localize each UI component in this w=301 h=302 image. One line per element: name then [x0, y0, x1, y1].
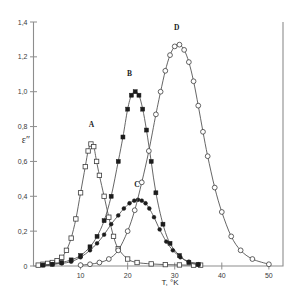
marker-A [69, 236, 73, 240]
marker-B [144, 128, 148, 132]
marker-C [41, 263, 45, 267]
marker-D [266, 262, 271, 267]
marker-C [158, 228, 162, 232]
marker-A [97, 173, 101, 177]
marker-C [178, 255, 182, 259]
marker-C [132, 199, 136, 203]
marker-C [164, 240, 168, 244]
series-line-B [43, 92, 198, 265]
chart-canvas: 00,20,40,60,81,01,21,41020304050 ABCD T,… [0, 0, 301, 302]
curves [36, 42, 271, 267]
marker-C [187, 260, 191, 264]
y-tick-label: 1,0 [18, 88, 28, 95]
marker-D [196, 103, 201, 108]
x-axis-title: T, °K [162, 278, 180, 287]
marker-D [177, 42, 182, 47]
x-tick-label: 10 [77, 272, 85, 279]
marker-C [79, 255, 83, 259]
marker-B [161, 222, 165, 226]
marker-A [55, 259, 59, 263]
marker-D [205, 154, 210, 159]
marker-B [133, 90, 137, 94]
marker-A [102, 194, 106, 198]
marker-A [83, 164, 87, 168]
marker-D [158, 89, 163, 94]
marker-C [60, 261, 64, 265]
marker-A [149, 262, 153, 266]
marker-A [135, 260, 139, 264]
marker-A [125, 257, 129, 261]
marker-C [88, 248, 92, 252]
marker-C [109, 222, 113, 226]
marker-B [126, 107, 130, 111]
marker-D [172, 44, 177, 49]
curve-labels: ABCD [89, 23, 180, 189]
marker-C [116, 214, 120, 218]
y-tick-label: 0,8 [18, 123, 28, 130]
marker-D [139, 180, 144, 185]
marker-D [116, 248, 121, 253]
y-tick-label: 1,2 [18, 53, 28, 60]
marker-A [107, 215, 111, 219]
marker-D [191, 79, 196, 84]
marker-B [116, 159, 120, 163]
marker-C [152, 215, 156, 219]
series-D [78, 42, 271, 267]
y-tick-label: 0,4 [18, 193, 28, 200]
marker-B [95, 234, 99, 238]
marker-A [64, 248, 68, 252]
marker-A [92, 144, 96, 148]
curve-label-C: C [134, 180, 139, 189]
marker-B [121, 135, 125, 139]
marker-A [60, 255, 64, 259]
marker-D [163, 68, 168, 73]
x-tick-label: 20 [124, 272, 132, 279]
x-tick-label: 50 [265, 272, 273, 279]
marker-C [147, 207, 151, 211]
marker-A [94, 159, 98, 163]
marker-B [129, 93, 133, 97]
curve-label-D: D [174, 23, 180, 32]
curve-label-B: B [127, 69, 132, 78]
marker-B [137, 93, 141, 97]
marker-C [196, 262, 200, 266]
y-tick-label: 0,6 [18, 158, 28, 165]
marker-C [69, 260, 73, 264]
marker-B [109, 194, 113, 198]
marker-A [36, 263, 40, 267]
marker-A [86, 149, 90, 153]
marker-D [201, 129, 206, 134]
series-B [41, 90, 200, 267]
marker-A [78, 191, 82, 195]
marker-D [153, 112, 158, 117]
y-axis-title: ε″ [22, 134, 30, 145]
curve-label-A: A [89, 120, 95, 129]
marker-C [122, 207, 126, 211]
marker-B [149, 159, 153, 163]
marker-D [146, 149, 151, 154]
marker-B [141, 107, 145, 111]
marker-A [177, 263, 181, 267]
marker-D [132, 208, 137, 213]
series-C [41, 198, 200, 267]
marker-D [250, 257, 255, 262]
dielectric-loss-chart: 00,20,40,60,81,01,21,41020304050 ABCD T,… [0, 0, 301, 302]
marker-D [212, 185, 217, 190]
marker-A [74, 217, 78, 221]
y-tick-label: 0 [24, 263, 28, 270]
marker-D [106, 257, 111, 262]
marker-D [238, 248, 243, 253]
x-tick-label: 40 [218, 272, 226, 279]
marker-A [111, 234, 115, 238]
marker-D [125, 229, 130, 234]
marker-D [168, 53, 173, 58]
marker-C [95, 241, 99, 245]
marker-C [102, 233, 106, 237]
marker-C [171, 248, 175, 252]
marker-B [154, 191, 158, 195]
series-line-D [81, 44, 269, 265]
marker-C [128, 201, 132, 205]
series-line-C [43, 200, 198, 265]
marker-C [50, 262, 54, 266]
marker-D [182, 47, 187, 52]
